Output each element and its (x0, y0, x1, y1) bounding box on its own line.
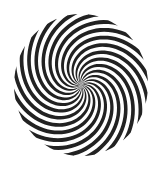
spiral-arms (0, 0, 162, 172)
spiral-illusion-graphic (0, 0, 162, 172)
